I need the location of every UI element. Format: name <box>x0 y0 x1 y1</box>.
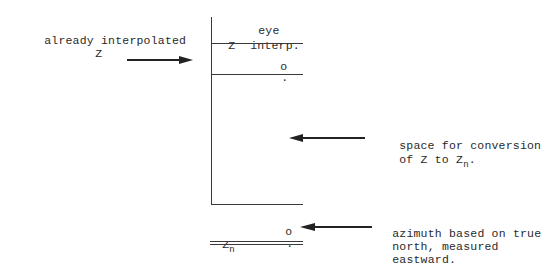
arrows-layer <box>0 0 559 263</box>
arrow-left-icon <box>300 223 372 231</box>
arrow-left-icon <box>289 134 365 142</box>
arrow-right-icon <box>127 56 193 64</box>
